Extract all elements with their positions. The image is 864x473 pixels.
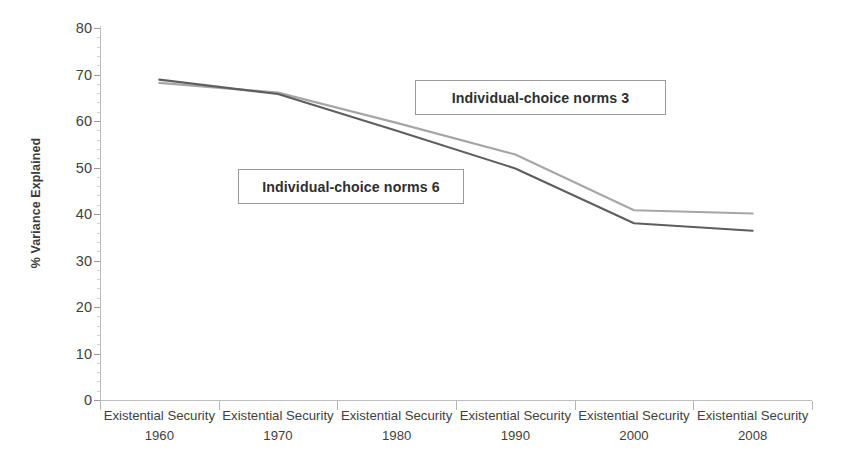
x-category-year: 1980: [337, 426, 456, 446]
y-tick-label: 70: [76, 67, 92, 83]
y-minor-tick: [97, 288, 100, 289]
y-minor-tick: [97, 102, 100, 103]
y-minor-tick: [97, 158, 100, 159]
annotation-individual-choice-norms-3: Individual-choice norms 3: [415, 80, 666, 115]
y-tick-mark: [94, 354, 100, 355]
x-axis-category-labels: Existential Security1960Existential Secu…: [100, 406, 812, 466]
x-category-label: Existential Security1980: [337, 406, 456, 446]
y-minor-tick: [97, 242, 100, 243]
y-minor-tick: [97, 37, 100, 38]
y-axis-tick-labels: 01020304050607080: [40, 28, 92, 400]
y-minor-tick: [97, 326, 100, 327]
y-tick-label: 50: [76, 160, 92, 176]
y-minor-tick: [97, 316, 100, 317]
y-minor-tick: [97, 93, 100, 94]
x-category-name: Existential Security: [575, 406, 694, 426]
y-tick-mark: [94, 307, 100, 308]
y-minor-tick: [97, 47, 100, 48]
x-category-year: 2000: [575, 426, 694, 446]
x-category-label: Existential Security2008: [693, 406, 812, 446]
y-minor-tick: [97, 84, 100, 85]
y-tick-label: 0: [84, 392, 92, 408]
y-tick-mark: [94, 214, 100, 215]
x-category-year: 1990: [456, 426, 575, 446]
y-minor-tick: [97, 381, 100, 382]
y-minor-tick: [97, 140, 100, 141]
x-category-label: Existential Security1970: [219, 406, 338, 446]
y-minor-tick: [97, 279, 100, 280]
x-category-label: Existential Security1990: [456, 406, 575, 446]
x-category-name: Existential Security: [456, 406, 575, 426]
x-category-name: Existential Security: [693, 406, 812, 426]
y-minor-tick: [97, 372, 100, 373]
y-minor-tick: [97, 344, 100, 345]
y-minor-tick: [97, 177, 100, 178]
y-tick-label: 20: [76, 299, 92, 315]
y-tick-label: 80: [76, 20, 92, 36]
annotation-individual-choice-norms-6: Individual-choice norms 6: [238, 169, 464, 204]
x-category-year: 2008: [693, 426, 812, 446]
x-tick-mark: [812, 401, 813, 410]
x-category-label: Existential Security2000: [575, 406, 694, 446]
x-category-year: 1960: [100, 426, 219, 446]
y-tick-label: 30: [76, 253, 92, 269]
y-minor-tick: [97, 112, 100, 113]
x-category-year: 1970: [219, 426, 338, 446]
x-category-name: Existential Security: [100, 406, 219, 426]
y-minor-tick: [97, 298, 100, 299]
y-axis-line: [100, 26, 101, 402]
y-minor-tick: [97, 233, 100, 234]
y-minor-tick: [97, 223, 100, 224]
y-minor-tick: [97, 186, 100, 187]
y-minor-tick: [97, 363, 100, 364]
y-minor-tick: [97, 270, 100, 271]
x-category-name: Existential Security: [219, 406, 338, 426]
x-category-name: Existential Security: [337, 406, 456, 426]
y-tick-mark: [94, 261, 100, 262]
y-minor-tick: [97, 149, 100, 150]
y-tick-label: 40: [76, 206, 92, 222]
y-tick-mark: [94, 75, 100, 76]
y-tick-label: 60: [76, 113, 92, 129]
y-minor-tick: [97, 251, 100, 252]
y-tick-mark: [94, 168, 100, 169]
y-minor-tick: [97, 391, 100, 392]
y-minor-tick: [97, 205, 100, 206]
y-tick-mark: [94, 28, 100, 29]
y-minor-tick: [97, 65, 100, 66]
chart-container: % Variance Explained 01020304050607080 E…: [0, 0, 864, 473]
x-category-label: Existential Security1960: [100, 406, 219, 446]
data-series-layer: [0, 0, 864, 473]
y-minor-tick: [97, 130, 100, 131]
y-tick-mark: [94, 121, 100, 122]
y-minor-tick: [97, 335, 100, 336]
y-minor-tick: [97, 56, 100, 57]
y-tick-label: 10: [76, 346, 92, 362]
y-minor-tick: [97, 195, 100, 196]
